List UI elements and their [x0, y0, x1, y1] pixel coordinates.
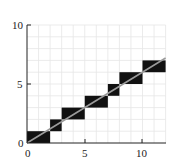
x-tick-label-5: 5	[82, 147, 88, 159]
x-tick-label-10: 10	[136, 147, 148, 159]
y-tick-label-5: 5	[17, 78, 23, 90]
chart: 10 5 0 0 5 10	[0, 0, 177, 166]
grid-lines	[27, 25, 166, 143]
y-tick-label-10: 10	[12, 19, 24, 31]
x-tick-label-0: 0	[25, 147, 31, 159]
y-tick-label-0: 0	[18, 137, 24, 149]
